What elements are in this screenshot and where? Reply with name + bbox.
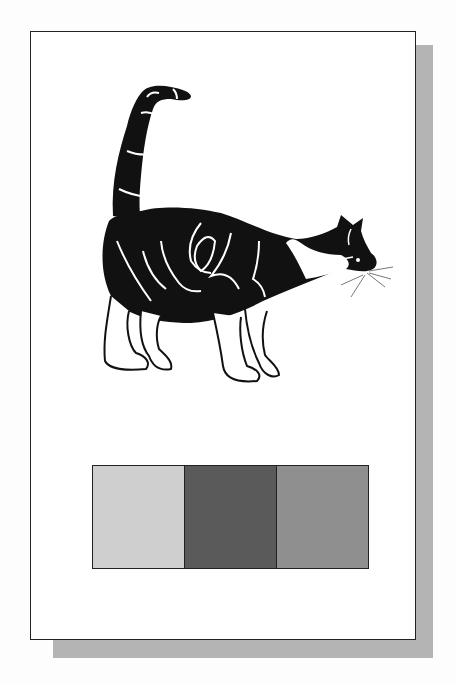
- swatch-dark-gray: [184, 466, 276, 568]
- swatch-medium-gray: [276, 466, 368, 568]
- swatch-light-gray: [93, 466, 184, 568]
- color-swatch-row: [92, 465, 369, 569]
- cat-illustration: [31, 32, 417, 452]
- figure-frame: [30, 31, 416, 640]
